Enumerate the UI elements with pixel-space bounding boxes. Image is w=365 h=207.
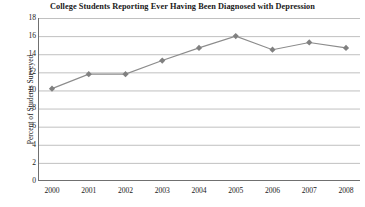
y-axis-tick-label: 6 bbox=[0, 122, 36, 130]
data-series-line bbox=[52, 36, 346, 89]
x-axis-tick-label: 2003 bbox=[142, 186, 182, 196]
x-axis-tick-label: 2007 bbox=[289, 186, 329, 196]
data-point-marker bbox=[86, 71, 92, 77]
y-axis-tick-label: 4 bbox=[0, 141, 36, 149]
x-axis-tick-label: 2004 bbox=[179, 186, 219, 196]
plot-area bbox=[38, 18, 360, 181]
y-axis-tick-labels: 181614121086420 bbox=[0, 0, 36, 207]
y-axis-tick-label: 10 bbox=[0, 86, 36, 94]
y-axis-tick-label: 0 bbox=[0, 177, 36, 185]
x-axis-tick-label: 2005 bbox=[216, 186, 256, 196]
y-axis-tick-label: 2 bbox=[0, 159, 36, 167]
y-axis-tick-label: 12 bbox=[0, 68, 36, 76]
data-point-marker bbox=[159, 57, 165, 63]
data-point-marker bbox=[269, 47, 275, 53]
x-axis-tick-label: 2008 bbox=[326, 186, 365, 196]
y-axis-tick-label: 16 bbox=[0, 32, 36, 40]
y-axis-tick-label: 18 bbox=[0, 14, 36, 22]
x-axis-tick-label: 2000 bbox=[32, 186, 72, 196]
x-axis-tick-label: 2001 bbox=[69, 186, 109, 196]
data-point-marker bbox=[343, 45, 349, 51]
data-point-marker bbox=[196, 45, 202, 51]
data-point-marker bbox=[306, 39, 312, 45]
y-axis-tick-label: 8 bbox=[0, 104, 36, 112]
data-point-marker bbox=[122, 71, 128, 77]
data-point-markers bbox=[49, 33, 349, 92]
chart-container: College Students Reporting Ever Having B… bbox=[0, 0, 365, 207]
line-chart-svg bbox=[38, 18, 360, 181]
x-axis-tick-label: 2006 bbox=[253, 186, 293, 196]
x-axis-tick-label: 2002 bbox=[106, 186, 146, 196]
x-axis-tick-labels: 200020012002200320042005200620072008 bbox=[38, 186, 360, 200]
data-point-marker bbox=[233, 33, 239, 39]
chart-title: College Students Reporting Ever Having B… bbox=[0, 1, 365, 12]
y-axis-tick-label: 14 bbox=[0, 50, 36, 58]
